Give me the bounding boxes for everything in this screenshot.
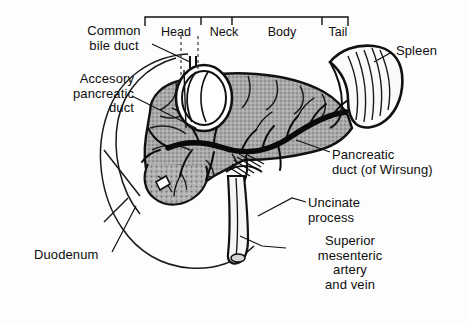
region-label-neck: Neck <box>203 26 245 39</box>
region-label-tail: Tail <box>318 26 358 39</box>
superior-mesenteric-vessels-shape <box>226 154 264 264</box>
pancreas-anatomy-figure: Head Neck Body Tail Common bile duct Acc… <box>0 0 469 323</box>
label-uncinate-process: Uncinate process <box>308 196 408 225</box>
accesory-pancreatic-duct-shape <box>176 65 232 131</box>
label-duodenum: Duodenum <box>34 248 134 263</box>
label-superior-mesenteric-artery-and-vein: Superior mesenteric artery and vein <box>288 234 412 292</box>
label-pancreatic-duct: Pancreatic duct (of Wirsung) <box>332 148 468 177</box>
region-label-body: Body <box>250 26 314 39</box>
label-accesory-pancreatic-duct: Accesory pancreatic duct <box>20 72 134 116</box>
label-spleen: Spleen <box>396 44 462 59</box>
label-common-bile-duct: Common bile duct <box>58 24 170 53</box>
spleen-shape <box>330 46 402 128</box>
